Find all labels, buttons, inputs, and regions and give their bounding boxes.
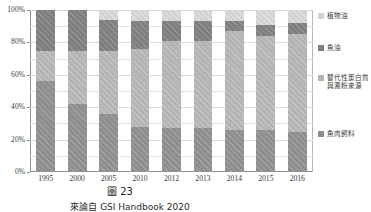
bar-segment (288, 34, 307, 131)
x-axis-tick-label: 1995 (30, 174, 61, 184)
bar-segment (68, 10, 87, 51)
bar-segment (99, 10, 118, 20)
bar-column (225, 10, 244, 172)
bar-column (288, 10, 307, 172)
bar-segment (225, 130, 244, 172)
legend-swatch-icon (318, 131, 324, 137)
y-axis-tick-label: 80% (11, 38, 25, 46)
bar-segment (162, 10, 181, 21)
legend-swatch-icon (318, 13, 324, 19)
legend-item-label: 魚肉飼料 (327, 130, 355, 138)
bar-segment (256, 36, 275, 130)
bar-segment (131, 127, 150, 172)
legend-swatch-icon (318, 75, 324, 81)
legend-swatch-icon (318, 45, 324, 51)
legend-item[interactable]: 魚油 (318, 44, 341, 52)
bar-segment (99, 20, 118, 51)
bar-segment (288, 132, 307, 173)
bar-segment (68, 104, 87, 172)
bar-segment (194, 128, 213, 172)
figure-root: 0%20%40%60%80%100% 199520002005201020122… (0, 0, 371, 212)
x-axis-tick-label: 2012 (156, 174, 187, 184)
y-axis-tick-label: 40% (11, 103, 25, 111)
bar-segment (36, 51, 55, 82)
bar-segment (162, 41, 181, 128)
x-axis-tick-label: 2016 (282, 174, 313, 184)
legend-item-label: 魚油 (327, 44, 341, 52)
y-axis: 0%20%40%60%80%100% (0, 0, 28, 212)
bar-segment (256, 130, 275, 172)
bar-segment (68, 51, 87, 104)
y-axis-tick-label: 60% (11, 71, 25, 79)
bar-segment (225, 31, 244, 130)
bar-segment (288, 10, 307, 23)
legend-item[interactable]: 替代性蛋白質與澱粉來源 (318, 74, 371, 91)
bar-column (162, 10, 181, 172)
y-axis-tick-mark (27, 172, 30, 173)
legend-item-label: 替代性蛋白質與澱粉來源 (327, 74, 371, 91)
bar-column (68, 10, 87, 172)
bar-segment (288, 23, 307, 34)
legend-item[interactable]: 植物油 (318, 12, 348, 20)
bar-segment (225, 21, 244, 31)
x-axis: 199520002005201020122013201420152016 (30, 174, 313, 186)
bar-segment (99, 114, 118, 172)
bar-column (256, 10, 275, 172)
bar-segment (194, 21, 213, 40)
bar-segment (131, 49, 150, 127)
figure-caption-title: 圖 23 (0, 186, 240, 198)
bar-segment (131, 10, 150, 21)
x-axis-tick-label: 2000 (61, 174, 92, 184)
legend-item[interactable]: 魚肉飼料 (318, 130, 355, 138)
bar-column (131, 10, 150, 172)
x-axis-tick-label: 2013 (187, 174, 218, 184)
x-axis-tick-label: 2010 (124, 174, 155, 184)
x-axis-tick-label: 2015 (250, 174, 281, 184)
y-axis-tick-label: 0% (15, 168, 25, 176)
x-axis-tick-label: 2014 (219, 174, 250, 184)
bar-segment (162, 21, 181, 40)
bar-segment (99, 51, 118, 114)
bar-column (99, 10, 118, 172)
legend-item-label: 植物油 (327, 12, 348, 20)
bar-segment (194, 10, 213, 21)
bar-segment (256, 25, 275, 36)
y-axis-tick-label: 100% (7, 6, 25, 14)
bar-column (194, 10, 213, 172)
bar-segment (256, 10, 275, 25)
bar-column (36, 10, 55, 172)
figure-caption-source: 來論自 GSI Handbook 2020 (0, 202, 260, 212)
y-axis-tick-label: 20% (11, 136, 25, 144)
bar-segment (36, 10, 55, 51)
bar-segment (131, 21, 150, 49)
bar-segment (194, 41, 213, 128)
bar-segment (36, 81, 55, 172)
figure-caption: 圖 23 (0, 186, 240, 198)
bar-segment (225, 10, 244, 21)
bar-segment (162, 128, 181, 172)
x-axis-tick-label: 2005 (93, 174, 124, 184)
plot-area (30, 10, 313, 172)
